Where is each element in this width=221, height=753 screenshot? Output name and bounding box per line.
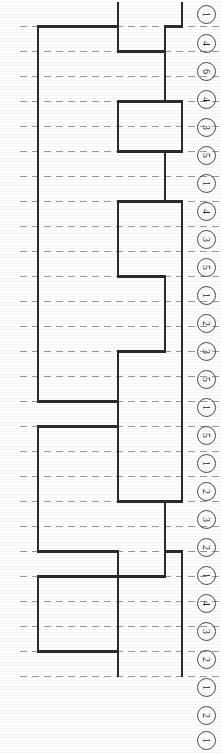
rank-badge: 1	[197, 174, 216, 193]
rank-badge: 4	[197, 90, 216, 109]
rank-item: 6	[192, 59, 221, 84]
rank-item: 5	[192, 143, 221, 168]
rank-item: 1	[192, 2, 221, 27]
figure-page: 146435143512351512321432121	[0, 0, 221, 753]
rank-item: 4	[192, 591, 221, 616]
rank-badge: 4	[197, 34, 216, 53]
rank-item: 4	[192, 87, 221, 112]
rank-item: 2	[192, 703, 221, 728]
rank-item: 2	[192, 479, 221, 504]
rank-badge: 1	[197, 5, 216, 24]
rank-column: 146435143512351512321432121	[192, 0, 221, 753]
rank-badge: 1	[197, 286, 216, 305]
rank-item: 2	[192, 311, 221, 336]
rank-item: 2	[192, 647, 221, 672]
series-path-group	[38, 2, 182, 677]
rank-badge: 1	[197, 454, 216, 473]
step-chart-svg	[0, 0, 221, 753]
rank-badge: 3	[197, 118, 216, 137]
rank-badge: 1	[197, 398, 216, 417]
rank-badge: 5	[197, 146, 216, 165]
rank-item: 1	[192, 171, 221, 196]
series-b-outline	[118, 2, 165, 677]
rank-item: 2	[192, 535, 221, 560]
rank-item: 1	[192, 451, 221, 476]
rank-badge: 4	[197, 594, 216, 613]
series-a-outline	[38, 2, 118, 677]
rank-badge: 3	[197, 510, 216, 529]
rank-item: 1	[192, 283, 221, 308]
rank-item: 5	[192, 423, 221, 448]
rank-item: 3	[192, 507, 221, 532]
rank-badge: 3	[197, 230, 216, 249]
step-chart-plot	[0, 0, 221, 753]
rank-badge: 5	[197, 426, 216, 445]
rank-badge: 6	[197, 62, 216, 81]
rank-item: 1	[192, 675, 221, 700]
rank-item: 3	[192, 115, 221, 140]
rank-item: 1	[192, 395, 221, 420]
rank-item: 1	[192, 563, 221, 588]
rank-item: 3	[192, 339, 221, 364]
rank-badge: 3	[197, 622, 216, 641]
rank-item: 5	[192, 367, 221, 392]
rank-item: 3	[192, 619, 221, 644]
rank-badge: 1	[197, 731, 216, 750]
rank-badge: 2	[197, 706, 216, 725]
rank-item: 1	[192, 728, 221, 753]
series-c-outline	[165, 2, 182, 677]
rank-badge: 5	[197, 370, 216, 389]
rank-item: 3	[192, 227, 221, 252]
rank-badge: 5	[197, 258, 216, 277]
rank-badge: 2	[197, 482, 216, 501]
rank-badge: 4	[197, 202, 216, 221]
rank-badge: 3	[197, 342, 216, 361]
rank-badge: 1	[197, 678, 216, 697]
rank-item: 4	[192, 199, 221, 224]
rank-badge: 2	[197, 314, 216, 333]
rank-badge: 2	[197, 538, 216, 557]
rank-badge: 1	[197, 566, 216, 585]
rank-item: 5	[192, 255, 221, 280]
rank-badge: 2	[197, 650, 216, 669]
rank-item: 4	[192, 31, 221, 56]
